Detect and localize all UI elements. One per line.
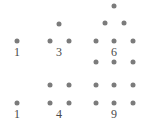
- dot: [131, 60, 136, 65]
- dot: [94, 60, 99, 65]
- dot: [131, 83, 136, 88]
- dot: [94, 101, 99, 106]
- dot: [94, 83, 99, 88]
- dot: [131, 101, 136, 106]
- dot-group-square-9: 9: [0, 0, 156, 125]
- dot: [112, 83, 117, 88]
- dot: [112, 60, 117, 65]
- dot: [112, 101, 117, 106]
- figurate-numbers-figure: 136149: [0, 0, 156, 125]
- count-label-square-9: 9: [111, 108, 117, 120]
